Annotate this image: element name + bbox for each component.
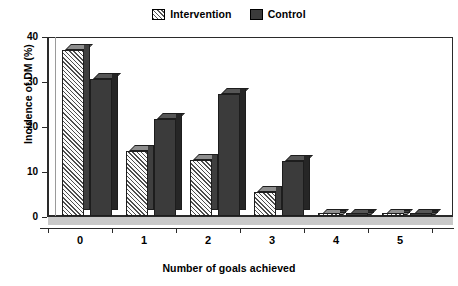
bar-front-face [346, 213, 368, 216]
x-axis-title: Number of goals achieved [0, 262, 458, 274]
x-tick-label-3: 3 [257, 235, 287, 246]
bar-side-face [112, 73, 118, 210]
bar-intervention-0 [62, 50, 84, 216]
y-tick-30 [42, 82, 47, 83]
bar-side-face [304, 155, 310, 210]
legend-entry-control: Control [250, 8, 306, 20]
bar-front-face [218, 94, 240, 216]
bar-front-face [154, 119, 176, 216]
y-tick-label-20: 20 [12, 122, 38, 132]
bar-intervention-4 [318, 213, 340, 216]
bar-front-face [410, 213, 432, 216]
bar-intervention-5 [382, 213, 404, 216]
bar-control-0 [90, 79, 112, 216]
legend-label-control: Control [268, 8, 306, 20]
x-tick-4 [304, 228, 305, 233]
bar-intervention-3 [254, 192, 276, 216]
x-tick-label-2: 2 [193, 235, 223, 246]
bar-control-4 [346, 213, 368, 216]
x-tick-end [432, 228, 433, 233]
bar-chart-figure: Intervention Control Incidence of DM (%)… [0, 0, 458, 286]
bar-front-face [254, 192, 276, 216]
legend-entry-intervention: Intervention [152, 8, 231, 20]
bar-front-face [190, 160, 212, 216]
bar-control-3 [282, 161, 304, 216]
x-tick-start [48, 228, 49, 233]
bar-front-face [382, 213, 404, 216]
x-tick-label-4: 4 [321, 235, 351, 246]
x-tick-label-5: 5 [385, 235, 415, 246]
y-tick-20 [42, 127, 47, 128]
bar-side-face [432, 210, 438, 213]
y-tick-10 [42, 172, 47, 173]
y-tick-label-10: 10 [12, 167, 38, 177]
chart-legend: Intervention Control [0, 8, 458, 20]
bar-front-face [90, 79, 112, 216]
bar-control-5 [410, 213, 432, 216]
x-tick-label-0: 0 [65, 235, 95, 246]
solid-swatch-icon [250, 9, 263, 20]
y-tick-0 [42, 217, 47, 218]
y-tick-label-40: 40 [12, 32, 38, 42]
bar-intervention-2 [190, 160, 212, 216]
y-tick-label-0: 0 [12, 212, 38, 222]
bar-front-face [62, 50, 84, 216]
bar-side-face [368, 210, 374, 213]
hatched-swatch-icon [152, 9, 165, 20]
x-axis-line [40, 228, 454, 229]
bar-front-face [318, 213, 340, 216]
bar-control-2 [218, 94, 240, 216]
bar-side-face [176, 113, 182, 210]
x-tick-5 [368, 228, 369, 233]
bar-front-face [282, 161, 304, 216]
bar-control-1 [154, 119, 176, 216]
x-tick-3 [240, 228, 241, 233]
plot-area [48, 37, 453, 216]
bar-side-face [240, 88, 246, 210]
y-tick-40 [42, 37, 47, 38]
bar-intervention-1 [126, 151, 148, 216]
plot-floor [48, 216, 453, 225]
legend-label-intervention: Intervention [170, 8, 231, 20]
plot-wall-edge [55, 37, 56, 216]
bar-front-face [126, 151, 148, 216]
x-tick-1 [112, 228, 113, 233]
y-tick-label-30: 30 [12, 77, 38, 87]
x-tick-label-1: 1 [129, 235, 159, 246]
x-tick-2 [176, 228, 177, 233]
